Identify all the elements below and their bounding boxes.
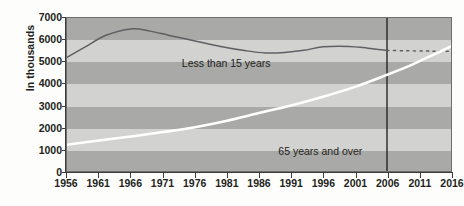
y-tick-label: 4000: [20, 78, 62, 89]
x-axis-line: [62, 172, 453, 173]
x-tick-mark: [66, 173, 67, 178]
x-tick-mark: [195, 173, 196, 178]
x-tick-mark: [98, 173, 99, 178]
y-tick-label: 1000: [20, 145, 62, 156]
y-axis-tick-labels: 01000200030004000500060007000: [20, 0, 62, 206]
y-tick-mark: [62, 106, 66, 107]
y-tick-mark: [62, 61, 66, 62]
y-tick-label: 2000: [20, 122, 62, 133]
x-axis-tick-labels: 1956196119661971197619811986199119962001…: [0, 178, 464, 198]
plot-area: [66, 17, 452, 172]
series-label-2: 65 years and over: [278, 146, 362, 157]
series-line-2: [67, 75, 387, 145]
series-projection-2: [387, 46, 451, 74]
x-tick-mark: [291, 173, 292, 178]
x-tick-mark: [259, 173, 260, 178]
y-tick-label: 7000: [20, 12, 62, 23]
x-tick-mark: [227, 173, 228, 178]
y-tick-mark: [62, 128, 66, 129]
x-tick-mark: [356, 173, 357, 178]
x-tick-mark: [420, 173, 421, 178]
y-tick-mark: [62, 150, 66, 151]
y-tick-label: 5000: [20, 56, 62, 67]
y-tick-label: 3000: [20, 100, 62, 111]
y-tick-mark: [62, 17, 66, 18]
x-tick-mark: [323, 173, 324, 178]
x-tick-mark: [388, 173, 389, 178]
x-tick-mark: [452, 173, 453, 178]
chart-root: In thousands 010002000300040005000600070…: [0, 0, 464, 206]
y-tick-mark: [62, 39, 66, 40]
x-tick-mark: [163, 173, 164, 178]
y-tick-label: 6000: [20, 34, 62, 45]
x-tick-mark: [130, 173, 131, 178]
series-label-1: Less than 15 years: [182, 58, 271, 69]
series-line-1: [67, 29, 387, 58]
y-tick-label: 0: [20, 167, 62, 178]
plot-series-svg: [67, 18, 451, 171]
y-tick-mark: [62, 83, 66, 84]
x-tick-label: 2016: [430, 178, 464, 189]
